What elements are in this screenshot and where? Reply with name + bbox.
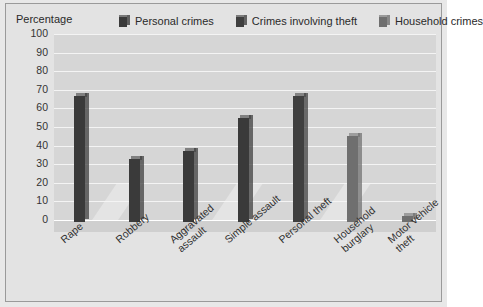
bar-series-group (54, 34, 436, 232)
y-tick-label: 10 (14, 195, 48, 205)
y-tick-label: 40 (14, 140, 48, 150)
bar[interactable] (347, 136, 360, 222)
legend-label: Personal crimes (135, 15, 214, 27)
legend-label: Household crimes (395, 15, 483, 27)
chart-legend: Personal crimesCrimes involving theftHou… (14, 11, 439, 31)
y-tick-label: 80 (14, 65, 48, 75)
y-tick-label: 70 (14, 84, 48, 94)
bar[interactable] (293, 96, 306, 222)
y-tick-label: 20 (14, 177, 48, 187)
plot-area: 1009080706050403020100 (14, 32, 438, 235)
legend-swatch-icon (119, 15, 130, 27)
bar-slot (327, 34, 382, 232)
y-tick-label: 60 (14, 102, 48, 112)
y-tick-label: 100 (14, 28, 48, 38)
y-tick-label: 30 (14, 158, 48, 168)
chart-frame: Percentage Personal crimesCrimes involvi… (5, 3, 442, 302)
bar[interactable] (238, 118, 251, 222)
x-axis-labels: RapeRobberyAggravatedassaultSimple assau… (54, 236, 454, 306)
bar-slot (109, 34, 164, 232)
legend-item-1[interactable]: Crimes involving theft (236, 15, 357, 27)
legend-label: Crimes involving theft (252, 15, 357, 27)
legend-item-0[interactable]: Personal crimes (119, 15, 214, 27)
y-tick-label: 50 (14, 121, 48, 131)
legend-swatch-icon (236, 15, 247, 27)
legend-item-2[interactable]: Household crimes (379, 15, 483, 27)
y-tick-label: 90 (14, 47, 48, 57)
bar[interactable] (74, 96, 87, 222)
bar-slot (54, 34, 109, 232)
y-tick-label: 0 (14, 214, 48, 224)
legend-swatch-icon (379, 15, 390, 27)
